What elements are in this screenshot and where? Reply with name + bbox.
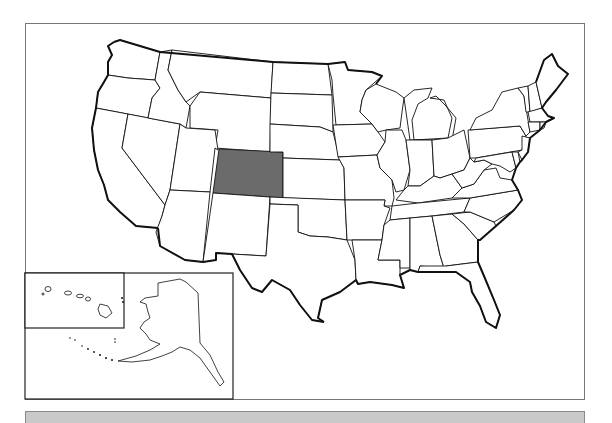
state-washington[interactable]: [108, 40, 160, 80]
state-new-mexico[interactable]: [203, 193, 270, 262]
state-kansas[interactable]: [283, 158, 345, 200]
state-colorado[interactable]: [213, 149, 283, 198]
bottom-panel: [25, 411, 585, 423]
state-north-dakota[interactable]: [271, 62, 332, 95]
hawaii-inset: [25, 273, 124, 328]
state-michigan[interactable]: [404, 88, 456, 140]
